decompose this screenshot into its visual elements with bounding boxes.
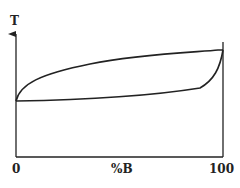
x-axis-label: %B [111,162,133,176]
liquidus-curve [16,50,223,101]
x-axis-tick-0: 0 [12,162,20,176]
y-axis-label: T [10,14,19,28]
phase-diagram [0,0,240,188]
x-axis-tick-100: 100 [209,162,234,176]
